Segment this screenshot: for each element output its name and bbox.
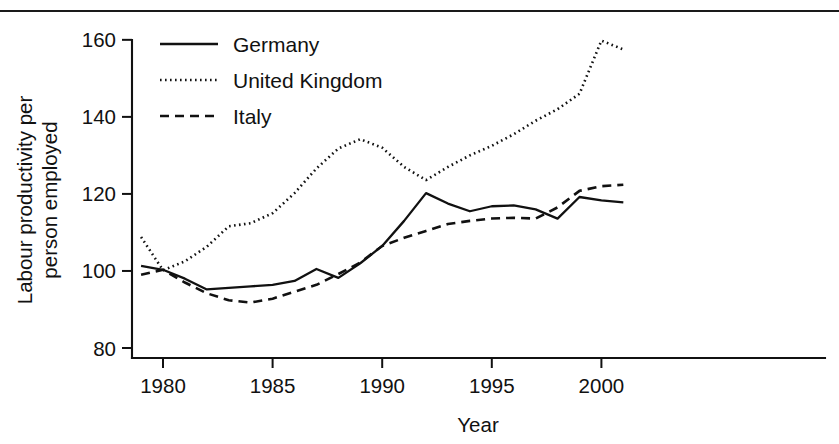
y-axis-title-line2: person employed: [38, 121, 61, 278]
y-tick-label: 100: [82, 259, 116, 282]
series-line-germany: [141, 193, 623, 289]
x-tick-label: 1980: [140, 374, 186, 397]
x-tick-label: 1995: [469, 374, 515, 397]
legend-label-united-kingdom: United Kingdom: [233, 69, 382, 92]
x-tick-label: 1985: [250, 374, 296, 397]
chart-legend: GermanyUnited KingdomItaly: [160, 33, 382, 128]
y-axis-ticks: 80100120140160: [82, 28, 132, 359]
y-axis-title-line1: Labour productivity per: [13, 96, 36, 305]
figure-container: 80100120140160 19801985199019952000 Year…: [0, 0, 839, 444]
x-axis-ticks: 19801985199019952000: [140, 358, 624, 397]
legend-label-germany: Germany: [233, 33, 320, 56]
x-tick-label: 2000: [579, 374, 625, 397]
y-tick-label: 80: [93, 337, 116, 360]
y-tick-label: 120: [82, 182, 116, 205]
x-tick-label: 1990: [359, 374, 405, 397]
y-tick-label: 140: [82, 105, 116, 128]
line-chart: 80100120140160 19801985199019952000 Year…: [0, 0, 839, 444]
x-axis-title: Year: [457, 413, 499, 436]
legend-label-italy: Italy: [233, 105, 272, 128]
series-line-italy: [141, 185, 623, 303]
y-tick-label: 160: [82, 28, 116, 51]
